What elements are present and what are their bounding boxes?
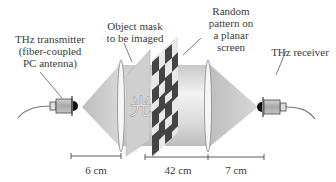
transmitter-label-line3: PC antenna) [2,57,98,69]
mask-label: Object mask to be imaged [100,20,170,44]
mask-label-line2: to be imaged [100,32,170,44]
dimension-6cm: 6 cm [76,164,116,176]
left-lens [118,60,125,152]
mask-label-line1: Object mask [100,20,170,32]
dimension-42cm: 42 cm [156,164,200,176]
left-beam-cone [82,63,121,148]
right-lens [205,60,212,152]
receiver-label: THz receiver [264,46,336,58]
pattern-label-line3: a planar [196,29,266,41]
dimension-lines [71,153,264,160]
thz-receiver-device [257,97,315,119]
dimension-7cm: 7 cm [216,164,256,176]
transmitter-label-line2: (fiber-coupled [2,45,98,57]
pattern-label: Random pattern on a planar screen [196,5,266,53]
mask-character: 光 [130,94,152,119]
thz-transmitter-device [18,96,78,118]
pattern-label-line4: screen [196,41,266,53]
pattern-label-line2: pattern on [196,17,266,29]
transmitter-label-line1: THz transmitter [2,33,98,45]
transmitter-label: THz transmitter (fiber-coupled PC antenn… [2,33,98,69]
right-beam-cone [208,63,258,148]
pattern-label-line1: Random [196,5,266,17]
